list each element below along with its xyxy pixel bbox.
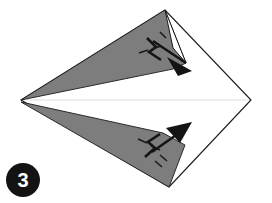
step-badge-label: 3 — [17, 169, 28, 191]
origami-diagram: 3 — [0, 0, 272, 203]
step-badge: 3 — [6, 163, 40, 197]
diagram-canvas: 3 — [0, 0, 272, 203]
